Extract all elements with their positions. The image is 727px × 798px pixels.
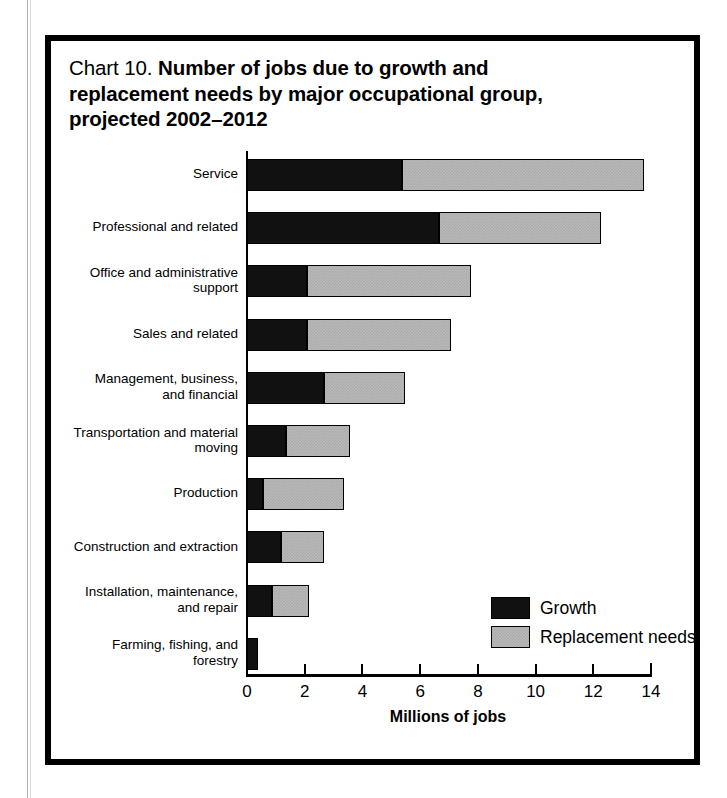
chart-frame: Chart 10. Number of jobs due to growth a… (45, 35, 700, 765)
x-axis-tick-label: 10 (516, 682, 556, 702)
bar-category-label: Service (23, 166, 238, 182)
bar-category-label: Construction and extraction (23, 539, 238, 555)
bar-segment-replacement-needs (272, 585, 310, 617)
bar-segment-replacement-needs (307, 265, 472, 297)
bar-segment-replacement-needs (402, 159, 644, 191)
x-axis-tick-label: 6 (400, 682, 440, 702)
bar-category-label: Sales and related (23, 326, 238, 342)
x-axis-tick-label: 2 (285, 682, 325, 702)
x-axis-tick-label: 12 (573, 682, 613, 702)
bar-segment-replacement-needs (439, 212, 601, 244)
x-axis-tick-label: 8 (458, 682, 498, 702)
x-axis-title: Millions of jobs (298, 708, 598, 726)
x-axis-tick (477, 664, 479, 675)
legend-swatch-growth (491, 597, 530, 619)
bar-segment-growth (246, 425, 286, 457)
x-axis-tick (419, 664, 421, 675)
x-axis-tick-label: 0 (227, 682, 267, 702)
y-axis-line (246, 151, 248, 674)
chart-legend: Growth Replacement needs (491, 597, 696, 655)
x-axis-tick (246, 663, 248, 677)
bar-segment-replacement-needs (307, 319, 451, 351)
bar-segment-replacement-needs (263, 478, 344, 510)
x-axis-tick (650, 663, 652, 677)
x-axis-tick (304, 664, 306, 675)
x-axis-tick (592, 664, 594, 675)
bar-segment-growth (246, 478, 263, 510)
bar-segment-growth (246, 265, 307, 297)
bar-category-label: Installation, maintenance, and repair (23, 584, 238, 615)
legend-label-growth: Growth (540, 598, 596, 619)
bar-segment-growth (246, 585, 272, 617)
bar-category-label: Production (23, 485, 238, 501)
x-axis-tick (361, 664, 363, 675)
bar-segment-growth (246, 212, 439, 244)
legend-item-replacement-needs: Replacement needs (491, 626, 696, 648)
bar-segment-growth (246, 372, 324, 404)
x-axis-tick (535, 664, 537, 675)
bar-segment-growth (246, 159, 402, 191)
legend-swatch-replacement-needs (491, 626, 530, 648)
bar-category-label: Office and administrative support (23, 265, 238, 296)
bar-category-label: Management, business, and financial (23, 371, 238, 402)
bar-segment-replacement-needs (281, 531, 324, 563)
x-axis-line (246, 674, 650, 677)
bar-segment-growth (246, 531, 281, 563)
bar-segment-growth (246, 319, 307, 351)
x-axis-tick-label: 4 (342, 682, 382, 702)
bar-category-label: Professional and related (23, 219, 238, 235)
x-axis-tick-label: 14 (631, 682, 671, 702)
bar-category-label: Farming, fishing, and forestry (23, 637, 238, 668)
chart-canvas: Chart 10. Number of jobs due to growth a… (51, 41, 694, 759)
legend-item-growth: Growth (491, 597, 696, 619)
legend-label-replacement-needs: Replacement needs (540, 627, 696, 648)
bar-segment-replacement-needs (286, 425, 349, 457)
bar-category-label: Transportation and material moving (23, 425, 238, 456)
bar-segment-replacement-needs (324, 372, 405, 404)
